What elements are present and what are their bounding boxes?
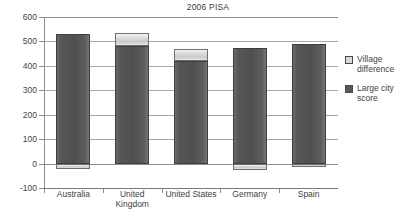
y-axis-tick [39,164,44,165]
plot-area: 6005004003002001000-100 [44,17,338,188]
bar-segment-village-difference[interactable] [233,164,267,170]
bar-segment-village-difference[interactable] [56,164,90,169]
bar-chart: 2006 PISA 6005004003002001000-100 Austra… [0,0,416,220]
bar-segment-large-city-score[interactable] [115,46,149,163]
y-axis-label: 600 [23,12,37,22]
y-axis-tick [39,139,44,140]
y-axis-tick [39,90,44,91]
y-axis-label: 100 [23,134,37,144]
x-axis-label: United States [165,189,216,199]
x-axis-label: Spain [298,189,320,199]
bar-segment-large-city-score[interactable] [292,44,326,163]
bar-segment-large-city-score[interactable] [233,48,267,163]
x-axis-label: Germany [232,189,267,199]
bar-segment-village-difference[interactable] [115,33,149,46]
x-axis-label: Australia [57,189,90,199]
y-axis-tick [39,41,44,42]
bar-group[interactable] [233,17,267,188]
legend-swatch-icon [345,56,353,64]
legend-label: Large city score [357,83,415,103]
bar-segment-large-city-score[interactable] [56,34,90,164]
legend-swatch-icon [345,85,353,93]
bar-group[interactable] [115,17,149,188]
y-axis-tick [39,66,44,67]
y-axis-label: 200 [23,110,37,120]
x-axis-labels: AustraliaUnited KingdomUnited StatesGerm… [44,189,338,219]
y-axis-tick [39,17,44,18]
y-axis-label: 500 [23,36,37,46]
y-axis-label: -100 [20,183,37,193]
bar-group[interactable] [174,17,208,188]
x-axis-label: United Kingdom [115,189,149,209]
bar-group[interactable] [56,17,90,188]
y-axis-tick [39,115,44,116]
chart-legend: Village differenceLarge city score [345,54,415,112]
chart-title: 2006 PISA [0,2,416,12]
legend-label: Village difference [357,54,415,74]
legend-item[interactable]: Village difference [345,54,415,74]
y-axis-label: 0 [32,159,37,169]
y-axis-label: 400 [23,61,37,71]
bar-group[interactable] [292,17,326,188]
legend-item[interactable]: Large city score [345,83,415,103]
y-axis-label: 300 [23,85,37,95]
bar-segment-village-difference[interactable] [174,49,208,61]
bar-segment-large-city-score[interactable] [174,61,208,164]
bar-segment-village-difference[interactable] [292,164,326,168]
